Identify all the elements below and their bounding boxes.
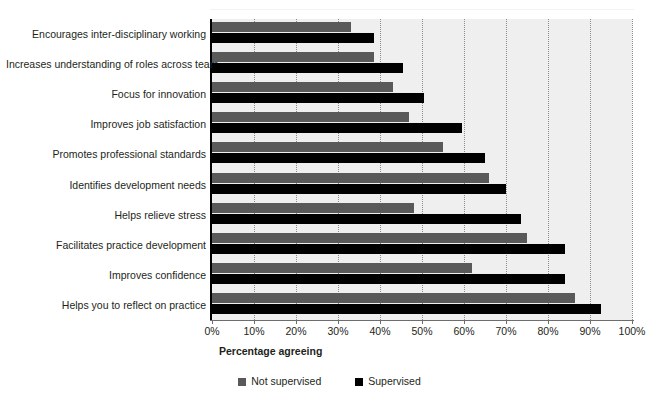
category-label: Improves job satisfaction [6, 118, 206, 130]
bar-chart: Encourages inter-disciplinary workingInc… [0, 0, 659, 403]
bar-group: Facilitates practice development [0, 230, 659, 260]
bar-group: Improves confidence [0, 260, 659, 290]
x-tick-label-80: 80% [537, 325, 558, 337]
bar-supervised [212, 63, 403, 73]
category-label: Increases understanding of roles across … [6, 58, 206, 70]
bar-not-supervised [212, 142, 443, 152]
bar-group: Encourages inter-disciplinary working [0, 19, 659, 49]
bar-supervised [212, 93, 424, 103]
bar-group: Increases understanding of roles across … [0, 49, 659, 79]
bar-not-supervised [212, 203, 414, 213]
bar-not-supervised [212, 263, 472, 273]
bar-pair [212, 82, 632, 106]
category-label: Promotes professional standards [6, 148, 206, 160]
bar-supervised [212, 304, 601, 314]
bar-pair [212, 142, 632, 166]
bar-pair [212, 112, 632, 136]
legend-swatch-icon [355, 378, 363, 386]
bar-pair [212, 203, 632, 227]
x-tick-label-50: 50% [411, 325, 432, 337]
bar-supervised [212, 244, 565, 254]
legend-item: Supervised [355, 375, 421, 387]
bar-pair [212, 293, 632, 317]
bar-supervised [212, 33, 374, 43]
category-label: Improves confidence [6, 269, 206, 281]
bar-supervised [212, 153, 485, 163]
x-tick-label-90: 90% [579, 325, 600, 337]
bar-pair [212, 22, 632, 46]
x-tick-label-60: 60% [453, 325, 474, 337]
bar-not-supervised [212, 82, 393, 92]
x-tick-70 [506, 320, 507, 324]
x-tick-30 [338, 320, 339, 324]
x-tick-20 [296, 320, 297, 324]
bar-not-supervised [212, 112, 409, 122]
x-tick-label-40: 40% [369, 325, 390, 337]
bar-not-supervised [212, 22, 351, 32]
category-label: Identifies development needs [6, 179, 206, 191]
legend-swatch-icon [238, 378, 246, 386]
x-axis-title: Percentage agreeing [219, 345, 322, 357]
x-tick-label-0: 0% [204, 325, 219, 337]
x-tick-60 [464, 320, 465, 324]
bar-pair [212, 233, 632, 257]
chart-legend: Not supervisedSupervised [0, 375, 659, 387]
bar-not-supervised [212, 293, 575, 303]
bar-pair [212, 52, 632, 76]
x-tick-label-100: 100% [619, 325, 646, 337]
category-label: Focus for innovation [6, 88, 206, 100]
bar-pair [212, 263, 632, 287]
bar-pair [212, 173, 632, 197]
bar-supervised [212, 274, 565, 284]
x-tick-100 [632, 320, 633, 324]
bar-group: Focus for innovation [0, 79, 659, 109]
x-tick-0 [212, 320, 213, 324]
legend-label: Not supervised [251, 375, 321, 387]
bar-group: Helps you to reflect on practice [0, 290, 659, 320]
x-tick-90 [590, 320, 591, 324]
bar-group: Helps relieve stress [0, 200, 659, 230]
x-tick-label-10: 10% [243, 325, 264, 337]
x-tick-label-30: 30% [327, 325, 348, 337]
x-tick-40 [380, 320, 381, 324]
bar-group: Promotes professional standards [0, 139, 659, 169]
bar-group: Identifies development needs [0, 170, 659, 200]
x-tick-10 [254, 320, 255, 324]
category-label: Facilitates practice development [6, 239, 206, 251]
bar-group: Improves job satisfaction [0, 109, 659, 139]
x-tick-label-70: 70% [495, 325, 516, 337]
x-tick-50 [422, 320, 423, 324]
x-tick-80 [548, 320, 549, 324]
bar-supervised [212, 123, 462, 133]
bar-not-supervised [212, 52, 374, 62]
bar-not-supervised [212, 233, 527, 243]
x-tick-label-20: 20% [285, 325, 306, 337]
bar-supervised [212, 214, 521, 224]
bar-not-supervised [212, 173, 489, 183]
legend-label: Supervised [368, 375, 421, 387]
category-label: Encourages inter-disciplinary working [6, 28, 206, 40]
bar-supervised [212, 184, 506, 194]
category-label: Helps you to reflect on practice [6, 299, 206, 311]
category-label: Helps relieve stress [6, 209, 206, 221]
scan-artifact-line [210, 9, 634, 10]
bar-rows: Encourages inter-disciplinary workingInc… [0, 19, 659, 320]
legend-item: Not supervised [238, 375, 321, 387]
